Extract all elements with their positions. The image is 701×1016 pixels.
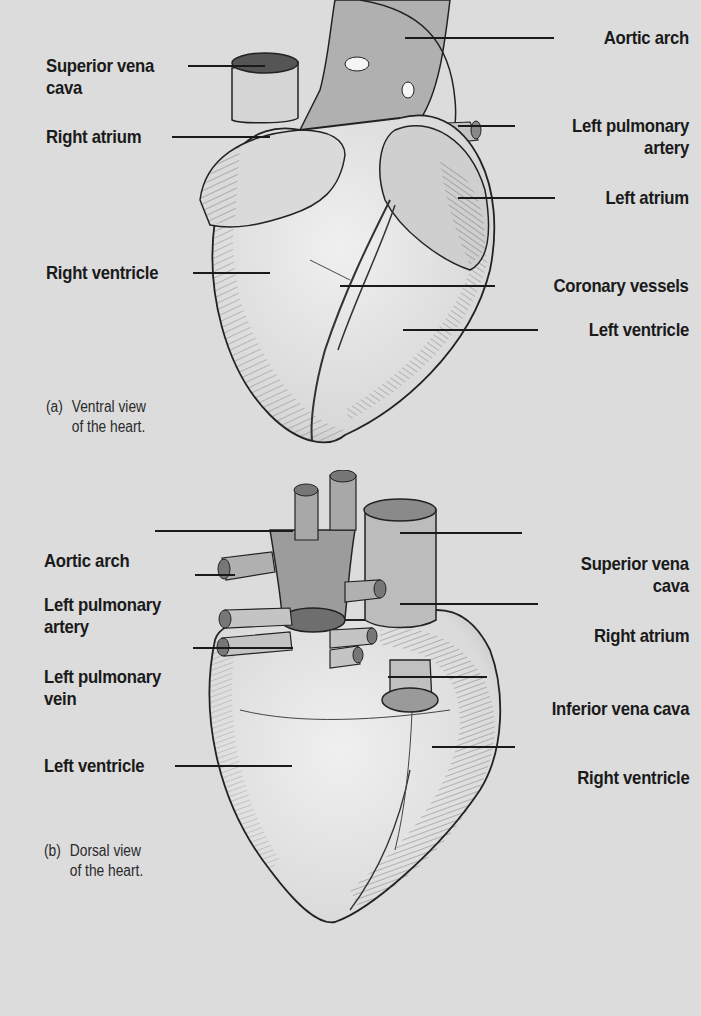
label-line: Left pulmonary [572, 115, 689, 137]
label-left-pulmonary-artery-a: Left pulmonary artery [572, 115, 689, 159]
label-left-ventricle-a: Left ventricle [589, 319, 689, 341]
label-line: artery [44, 616, 161, 638]
label-line: cava [581, 575, 689, 597]
label-line: Superior vena [46, 55, 154, 77]
caption-tag: (b) [44, 841, 70, 861]
label-line: Superior vena [581, 553, 689, 575]
label-line: artery [572, 137, 689, 159]
caption-a: (a)Ventral view of the heart. [46, 397, 146, 437]
label-left-pulmonary-artery-b: Left pulmonary artery [44, 594, 161, 638]
label-right-atrium-b: Right atrium [594, 625, 689, 647]
caption-line: of the heart. [46, 417, 146, 437]
label-coronary-vessels-a: Coronary vessels [554, 275, 689, 297]
caption-tag: (a) [46, 397, 72, 417]
label-left-pulmonary-vein-b: Left pulmonary vein [44, 666, 161, 710]
label-aortic-arch-b: Aortic arch [44, 550, 129, 572]
label-right-atrium-a: Right atrium [46, 126, 141, 148]
caption-line: Ventral view [72, 398, 146, 415]
label-left-ventricle-b: Left ventricle [44, 755, 144, 777]
label-superior-vena-cava-b: Superior vena cava [581, 553, 689, 597]
label-right-ventricle-a: Right ventricle [46, 262, 158, 284]
label-inferior-vena-cava-b: Inferior vena cava [552, 698, 689, 720]
label-superior-vena-cava-a: Superior vena cava [46, 55, 154, 99]
label-aortic-arch-a: Aortic arch [604, 27, 689, 49]
label-line: Left pulmonary [44, 666, 161, 688]
dorsal-view-figure: Aortic arch Left pulmonary artery Left p… [0, 470, 701, 1016]
caption-b: (b)Dorsal view of the heart. [44, 841, 143, 881]
label-line: vein [44, 688, 161, 710]
label-line: cava [46, 77, 154, 99]
label-line: Left pulmonary [44, 594, 161, 616]
caption-line: of the heart. [44, 861, 143, 881]
ventral-view-figure: Aortic arch Superior vena cava Right atr… [0, 0, 701, 470]
label-right-ventricle-b: Right ventricle [577, 767, 689, 789]
caption-line: Dorsal view [70, 842, 141, 859]
label-left-atrium-a: Left atrium [606, 187, 689, 209]
